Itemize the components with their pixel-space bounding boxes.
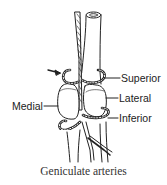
label-inferior: Inferior: [119, 113, 152, 124]
label-lateral: Lateral: [119, 93, 151, 104]
tibia: [67, 132, 70, 162]
label-medial: Medial: [12, 101, 43, 112]
figure-caption: Geniculate arteries: [0, 166, 167, 178]
fibula: [100, 124, 102, 162]
anterior-tibial-artery: [82, 122, 91, 162]
label-superior: Superior: [121, 73, 161, 84]
geniculate-arteries-figure: Superior Lateral Inferior Medial Genicul…: [0, 0, 167, 185]
